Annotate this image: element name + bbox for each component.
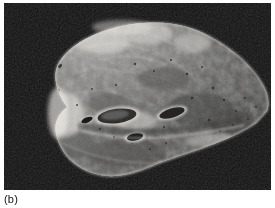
photograph-frame	[4, 3, 271, 190]
figure-caption: (b)	[4, 192, 18, 206]
figure-panel: (b)	[0, 0, 275, 208]
print-grain-overlay-dark	[4, 3, 271, 190]
lung-specimen-photograph	[4, 3, 271, 190]
